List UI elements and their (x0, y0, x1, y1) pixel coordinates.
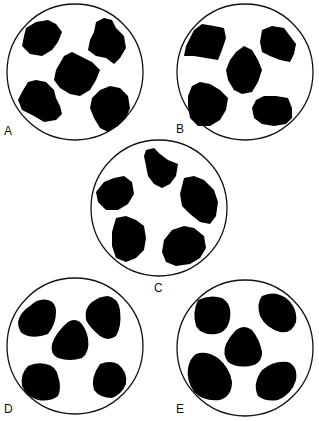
particle-b1 (184, 24, 226, 60)
particle-d2 (86, 296, 121, 339)
particle-b5 (252, 96, 292, 126)
particle-c2 (96, 176, 134, 210)
particle-e3 (224, 327, 262, 367)
panel-a (7, 4, 143, 140)
particle-a1 (22, 20, 62, 56)
particle-d5 (93, 362, 126, 398)
particle-c5 (162, 226, 206, 266)
panel-c (91, 140, 227, 276)
particle-b2 (260, 26, 296, 62)
particle-shape-diagram (0, 0, 319, 421)
particle-c1 (144, 148, 178, 188)
panel-label-b: B (176, 122, 184, 136)
particle-e5 (256, 362, 297, 401)
particle-a2 (88, 18, 126, 64)
particle-b3 (226, 46, 262, 94)
particle-a4 (18, 80, 62, 122)
particle-a5 (90, 86, 130, 132)
particle-d3 (52, 320, 89, 360)
panel-d (7, 278, 143, 414)
particle-b4 (188, 82, 228, 126)
particle-c3 (180, 176, 218, 224)
panel-label-e: E (176, 402, 184, 416)
panel-label-d: D (4, 402, 13, 416)
particle-c4 (112, 216, 146, 262)
particle-e2 (258, 293, 296, 332)
particle-d1 (18, 300, 56, 337)
panel-b (177, 4, 313, 140)
particle-e1 (194, 296, 230, 334)
panel-label-c: C (154, 281, 163, 295)
particle-a3 (54, 52, 100, 96)
panel-e (177, 280, 313, 416)
panel-label-a: A (4, 124, 12, 138)
